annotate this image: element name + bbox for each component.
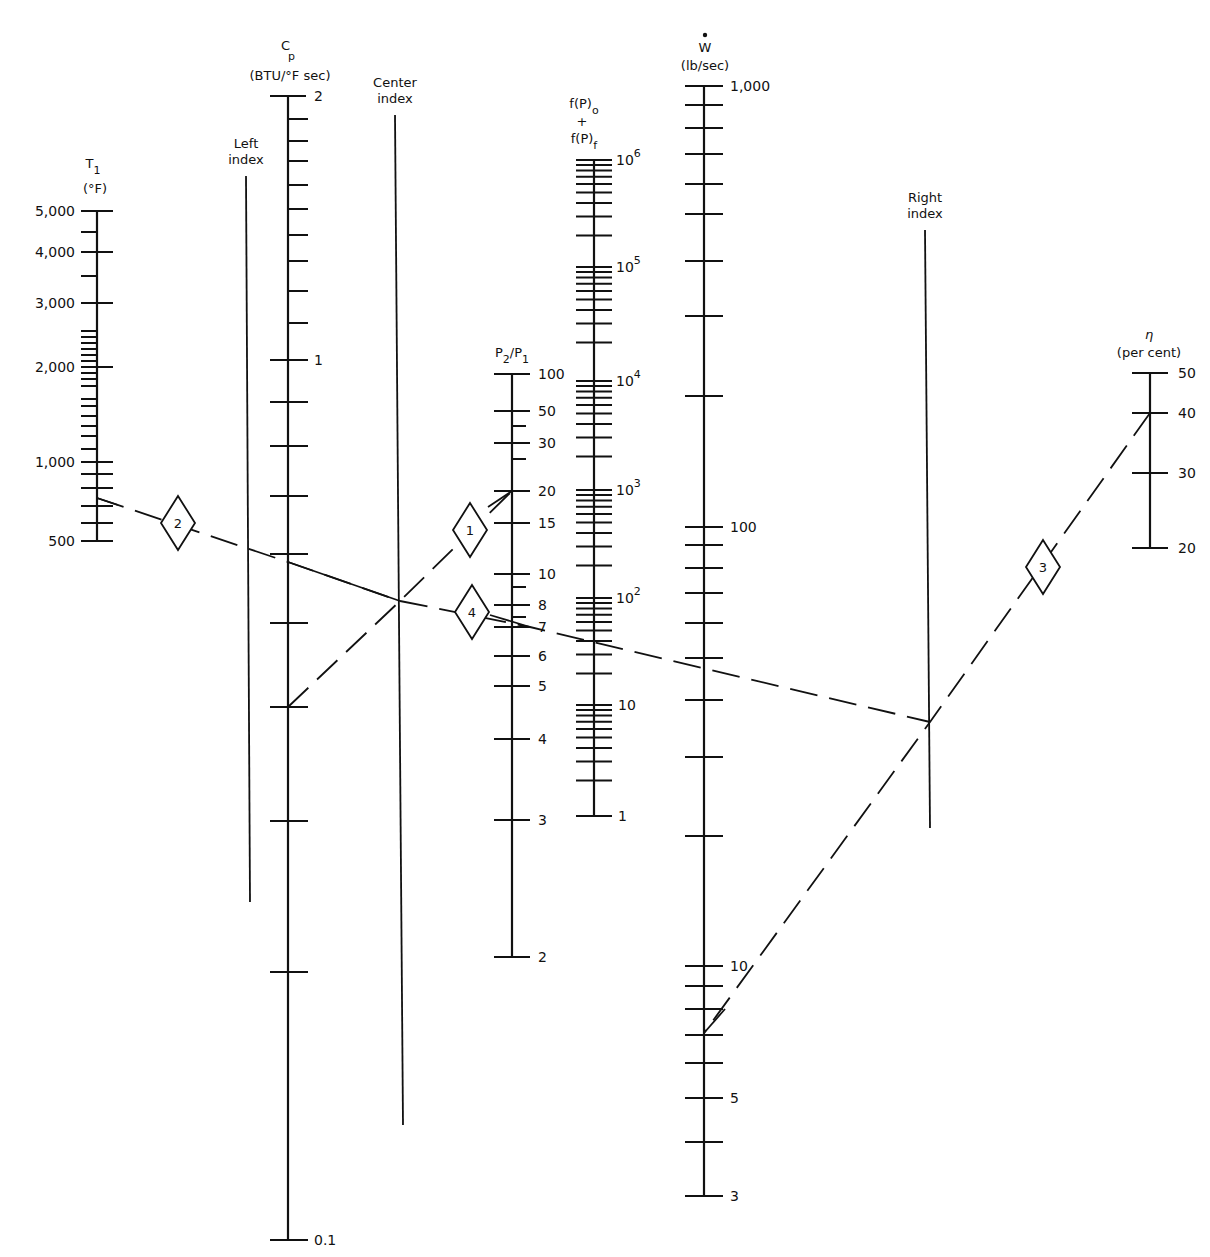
tick-label: 10 — [730, 958, 748, 974]
tick-label: 5,000 — [35, 203, 75, 219]
index-line-left: Leftindex — [228, 136, 264, 902]
scale-P2P1: 10050302015108765432P2/P1 — [494, 345, 565, 965]
connector-w — [704, 1009, 725, 1033]
tick-label: 7 — [538, 619, 547, 635]
W-unit: (lb/sec) — [681, 58, 729, 73]
P2P1-title: P2/P1 — [495, 345, 529, 366]
eta-title: η — [1145, 327, 1153, 342]
tick-label: 1 — [618, 808, 627, 824]
t: /P — [510, 345, 522, 360]
tick-label: 10 — [538, 566, 556, 582]
step-number: 1 — [466, 523, 474, 538]
label-base: 10 — [616, 152, 634, 168]
scale-W: 1,0001001053W(lb/sec) — [681, 33, 770, 1204]
tick-label: 106 — [616, 147, 641, 168]
tick-label: 20 — [1178, 540, 1196, 556]
tick-label: 3 — [538, 812, 547, 828]
tick-label: 20 — [538, 483, 556, 499]
tick-label: 5 — [538, 678, 547, 694]
label-base: 10 — [616, 373, 634, 389]
tick-label: 1,000 — [35, 454, 75, 470]
right-index-label: index — [907, 206, 943, 221]
scale-T1: 5,0004,0003,0002,0001,000500T1(°F) — [35, 156, 113, 549]
title-sub: p — [288, 50, 295, 63]
step-number: 2 — [174, 516, 182, 531]
title-sub: 1 — [93, 164, 100, 177]
right-index-line — [925, 230, 930, 828]
tick-label: 30 — [538, 435, 556, 451]
fP-plus: + — [577, 114, 588, 129]
solution-lines — [97, 413, 1150, 1033]
tick-label: 2 — [314, 88, 323, 104]
index-line-right: Rightindex — [907, 190, 943, 828]
tick-label: 50 — [1178, 365, 1196, 381]
tick-label: 1,000 — [730, 78, 770, 94]
tick-label: 103 — [616, 477, 641, 498]
scale-fP: 106105104103102101f(P)o+f(P)f — [569, 96, 640, 824]
tick-label: 100 — [730, 519, 757, 535]
label-base: 10 — [616, 590, 634, 606]
t: f — [593, 139, 598, 152]
left-index-label: index — [228, 152, 264, 167]
tick-label: 2 — [538, 949, 547, 965]
tick-label: 3,000 — [35, 295, 75, 311]
tick-label: 1 — [314, 352, 323, 368]
t: 1 — [522, 353, 529, 366]
tick-label: 40 — [1178, 405, 1196, 421]
label-exponent: 5 — [634, 254, 641, 267]
tick-label: 15 — [538, 515, 556, 531]
tick-label: 2,000 — [35, 359, 75, 375]
tick-label: 50 — [538, 403, 556, 419]
fP-title-f: f(P)f — [571, 131, 599, 152]
connector-T1 — [97, 498, 118, 505]
tick-label: 8 — [538, 597, 547, 613]
label-exponent: 3 — [634, 477, 641, 490]
tick-label: 6 — [538, 648, 547, 664]
center-index-label: Center — [373, 75, 417, 90]
T1-title: T1 — [85, 156, 101, 177]
scale-eta: 50403020η(per cent) — [1117, 327, 1196, 556]
step-number: 3 — [1039, 560, 1047, 575]
tick-label: 104 — [616, 368, 641, 389]
tick-label: 102 — [616, 585, 641, 606]
center-index-line — [395, 115, 403, 1125]
label-exponent: 2 — [634, 585, 641, 598]
step-markers: 1243 — [161, 496, 1060, 639]
eta-unit: (per cent) — [1117, 345, 1181, 360]
t: P — [495, 345, 503, 360]
t: f(P) — [569, 96, 592, 111]
tick-label: 100 — [538, 366, 565, 382]
left-index-line — [246, 176, 250, 902]
W-dot — [703, 33, 707, 37]
scale-Cp: 210.1Cp(BTU/°F sec) — [250, 38, 337, 1248]
T1-unit: (°F) — [83, 181, 107, 196]
label-exponent: 6 — [634, 147, 641, 160]
connector-p20 — [488, 491, 512, 507]
tick-label: 500 — [48, 533, 75, 549]
tick-label: 30 — [1178, 465, 1196, 481]
t: o — [592, 104, 599, 117]
title-main: T — [85, 156, 94, 171]
step-1-marker: 1 — [453, 503, 487, 557]
tick-label: 5 — [730, 1090, 739, 1106]
right-index-label: Right — [908, 190, 942, 205]
t: f(P) — [571, 131, 594, 146]
scales: 5,0004,0003,0002,0001,000500T1(°F)210.1C… — [35, 33, 1196, 1248]
nomograph: LeftindexCenterindexRightindex 5,0004,00… — [0, 0, 1210, 1257]
center-index-label: index — [377, 91, 413, 106]
connector-cp-center — [288, 562, 400, 601]
tick-label: 4 — [538, 731, 547, 747]
tick-label: 0.1 — [314, 1232, 336, 1248]
tick-label: 4,000 — [35, 244, 75, 260]
step-4-marker: 4 — [455, 585, 489, 639]
label-base: 10 — [616, 259, 634, 275]
t: 2 — [503, 353, 510, 366]
tick-label: 10 — [618, 697, 636, 713]
step-2-marker: 2 — [161, 496, 195, 550]
Cp-unit: (BTU/°F sec) — [250, 68, 331, 83]
W-title: W — [699, 40, 712, 55]
tick-label: 105 — [616, 254, 641, 275]
label-base: 10 — [616, 482, 634, 498]
left-index-label: Left — [234, 136, 258, 151]
tick-label: 3 — [730, 1188, 739, 1204]
